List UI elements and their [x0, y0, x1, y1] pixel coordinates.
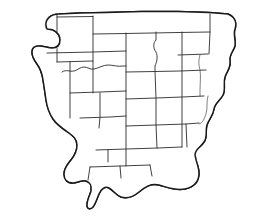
boundary-tier-1 — [57, 17, 93, 18]
map-canvas — [0, 0, 258, 221]
landmass-outline-overdraw — [32, 12, 236, 209]
map-figure — [0, 0, 258, 221]
landmass-group — [32, 12, 236, 209]
